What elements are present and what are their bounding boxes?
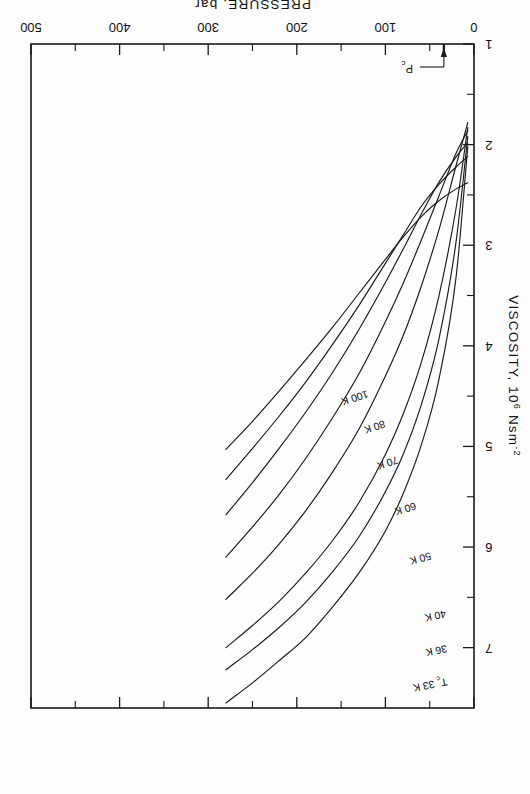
x-tick-label: 200 bbox=[286, 20, 308, 35]
y-tick-label: 3 bbox=[485, 238, 492, 253]
y-axis-title-text: VISCOSITY, 10 bbox=[506, 295, 521, 403]
x-tick-label: 0 bbox=[470, 20, 477, 35]
curve-70-k bbox=[226, 143, 468, 515]
plot-canvas bbox=[0, 0, 530, 794]
x-tick-label: 500 bbox=[20, 20, 42, 35]
x-tick-label: 300 bbox=[197, 20, 219, 35]
pc-annotation-label: Pc bbox=[402, 59, 413, 74]
y-tick-label: 7 bbox=[485, 640, 492, 655]
x-tick-label: 100 bbox=[375, 20, 397, 35]
x-tick-label: 400 bbox=[109, 20, 131, 35]
curve-40-k bbox=[226, 128, 468, 648]
y-tick-label: 1 bbox=[485, 37, 492, 52]
y-axis-units-exponent: -2 bbox=[512, 446, 522, 456]
curve-80-k bbox=[226, 157, 468, 480]
x-axis-title: PRESSURE, bar bbox=[194, 0, 311, 12]
pc-arrow-head bbox=[441, 48, 447, 57]
y-tick-label: 2 bbox=[485, 137, 492, 152]
figure-page: PRESSURE, bar VISCOSITY, 106 Nsm-2 Pc 01… bbox=[0, 0, 530, 794]
chart-figure: PRESSURE, bar VISCOSITY, 106 Nsm-2 Pc 01… bbox=[0, 0, 530, 794]
y-axis-title: VISCOSITY, 106 Nsm-2 bbox=[506, 295, 523, 456]
y-axis-units: Nsm bbox=[506, 410, 521, 446]
y-tick-label: 5 bbox=[485, 439, 492, 454]
y-tick-label: 4 bbox=[485, 338, 492, 353]
y-tick-label: 6 bbox=[485, 540, 492, 555]
plot-frame bbox=[31, 44, 474, 708]
